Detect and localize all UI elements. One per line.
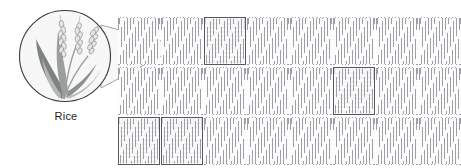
field-plot	[118, 67, 160, 115]
field-plot	[419, 17, 461, 65]
field-plot	[161, 67, 203, 115]
field-plot	[376, 117, 418, 165]
field-plot	[419, 67, 461, 115]
field-plot	[376, 17, 418, 65]
field-plot	[376, 67, 418, 115]
field-plot	[419, 117, 461, 165]
field-plot-highlighted	[161, 117, 203, 165]
field-plot	[161, 17, 203, 65]
field-plot-highlighted	[333, 67, 375, 115]
field-plot-highlighted	[204, 17, 246, 65]
field-plot	[247, 67, 289, 115]
field-plot	[204, 67, 246, 115]
field-plot	[333, 117, 375, 165]
field-plot	[290, 67, 332, 115]
field-plot	[204, 117, 246, 165]
field-plot-highlighted	[118, 117, 160, 165]
field-plot	[333, 17, 375, 65]
field-plot	[247, 17, 289, 65]
field-plot	[290, 17, 332, 65]
field-plot	[290, 117, 332, 165]
field-plot	[247, 117, 289, 165]
field-plot	[118, 17, 160, 65]
